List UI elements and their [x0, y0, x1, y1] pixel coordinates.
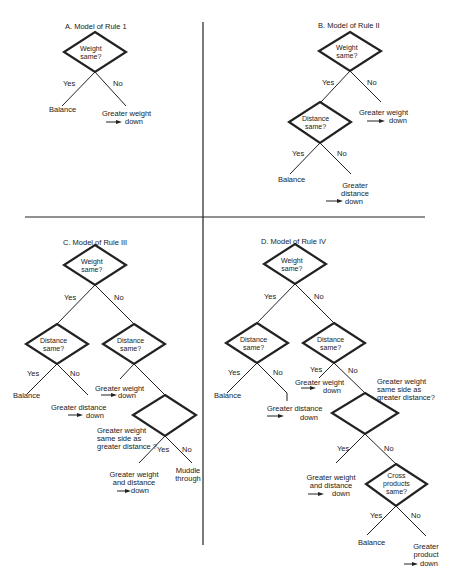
outcome-greater-distance-down: down: [86, 412, 104, 421]
panel-c-title: C. Model of Rule III: [63, 238, 127, 247]
arrow-icon: [101, 393, 117, 397]
panel-b-title: B. Model of Rule II: [318, 21, 380, 30]
node-c-distance-same-right: Distance same?: [117, 337, 144, 353]
arrow-icon: [106, 120, 122, 124]
branch-no: No: [337, 150, 347, 159]
question-greater-weight-3: greater distance?: [377, 394, 435, 403]
branch-yes: Yes: [228, 369, 240, 378]
branch-no: No: [113, 80, 123, 89]
branch-no: No: [384, 445, 394, 454]
branch-yes: Yes: [64, 294, 76, 303]
branch-yes: Yes: [63, 80, 75, 89]
branch-yes: Yes: [337, 445, 349, 454]
arrow-icon: [404, 562, 418, 566]
branch-yes: Yes: [27, 370, 39, 379]
arrow-icon: [326, 199, 343, 203]
branch-yes: Yes: [310, 366, 322, 375]
node-d-distance-same-right: Distance same?: [317, 336, 344, 352]
branch-yes: Yes: [292, 150, 304, 159]
arrow-icon: [117, 489, 131, 493]
outcome-greater-product-down: down: [420, 560, 438, 569]
branch-no: No: [367, 79, 377, 88]
branch-no: No: [182, 446, 192, 455]
branch-yes: Yes: [370, 512, 382, 521]
node-d-weight-same: Weight same?: [281, 257, 303, 273]
branch-no: No: [314, 293, 324, 302]
node-a-weight-same: Weight same?: [80, 45, 102, 61]
panel-d-title: D. Model of Rule IV: [261, 237, 326, 246]
node-b-weight-same: Weight same?: [336, 44, 358, 60]
node-c-weight-same: Weight same?: [81, 258, 103, 274]
outcome-balance: Balance: [214, 392, 241, 401]
outcome-greater-weight-down: down: [118, 392, 136, 401]
outcome-balance: Balance: [278, 176, 305, 185]
branch-yes: Yes: [322, 79, 334, 88]
branch-no: No: [273, 369, 283, 378]
arrow-icon: [367, 119, 385, 123]
arrow-icon: [267, 414, 284, 418]
outcome-balance: Balance: [49, 106, 76, 115]
outcome-weight-and-distance-down: down: [332, 490, 350, 499]
node-c-distance-same-left: Distance same?: [40, 337, 67, 353]
branch-no: No: [114, 294, 124, 303]
arrow-icon: [308, 492, 324, 496]
outcome-greater-weight-down: down: [323, 387, 341, 396]
outcome-greater-weight-down: down: [125, 118, 143, 127]
outcome-balance: Balance: [358, 539, 385, 548]
outcome-greater-weight-down: down: [389, 117, 407, 126]
node-d-distance-same-left: Distance same?: [240, 336, 267, 352]
branch-no: No: [411, 512, 421, 521]
question-greater-weight-3: greater distance ?: [97, 443, 157, 452]
branch-no: No: [70, 370, 80, 379]
outcome-balance: Balance: [13, 392, 40, 401]
outcome-weight-and-distance-down: down: [131, 487, 149, 496]
outcome-muddle-2: through: [174, 475, 202, 484]
panel-a-title: A. Model of Rule 1: [65, 22, 127, 31]
outcome-greater-distance-down: down: [345, 198, 363, 207]
branch-no: No: [348, 367, 358, 376]
branch-yes: Yes: [157, 446, 169, 455]
node-d-cross-products-same: Cross products same?: [383, 472, 410, 496]
arrow-icon: [68, 413, 83, 417]
node-b-distance-same: Distance same?: [302, 115, 329, 131]
outcome-greater-distance-down: down: [300, 414, 318, 423]
branch-yes: Yes: [264, 293, 276, 302]
